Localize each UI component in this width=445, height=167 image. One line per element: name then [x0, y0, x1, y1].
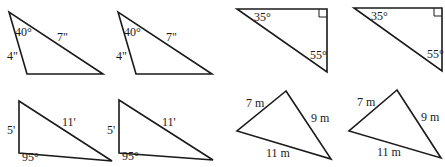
right-triangle-35-55-1: 35° 55°: [237, 9, 327, 72]
angle-label: 35°: [254, 10, 271, 24]
side-label: 4": [7, 49, 18, 63]
triangle-outline: [118, 12, 212, 74]
angle-label: 40°: [124, 25, 141, 39]
side-label: 11 m: [377, 145, 402, 159]
triangle-40deg-4in-7in-2: 40° 7" 4": [116, 12, 212, 74]
side-label: 5': [7, 123, 15, 137]
right-angle-mark: [319, 9, 327, 17]
angle-label: 35°: [371, 9, 388, 23]
triangle-outline: [354, 8, 442, 71]
right-angle-mark: [434, 8, 442, 16]
triangle-40deg-4in-7in-1: 40° 7" 4": [7, 12, 103, 74]
triangles-diagram: 40° 7" 4" 40° 7" 4" 35° 55° 35° 55° 5' 1…: [0, 0, 445, 167]
triangle-7m-9m-11m-2: 7 m 9 m 11 m: [349, 90, 441, 159]
triangle-outline: [9, 12, 103, 74]
side-label: 11 m: [266, 146, 291, 160]
right-triangle-35-55-2: 35° 55°: [354, 8, 444, 71]
angle-label: 55°: [310, 48, 327, 62]
angle-label: 95°: [122, 149, 139, 163]
angle-label: 40°: [15, 25, 32, 39]
side-label: 9 m: [311, 111, 330, 125]
side-label: 11': [62, 115, 76, 129]
triangle-5ft-11ft-95deg-2: 5' 11' 95°: [107, 100, 213, 163]
side-label: 5': [107, 123, 115, 137]
side-label: 4": [116, 49, 127, 63]
side-label: 11': [162, 115, 176, 129]
angle-label: 55°: [427, 47, 444, 61]
triangle-5ft-11ft-95deg-1: 5' 11' 95°: [7, 101, 112, 164]
side-label: 9 m: [421, 110, 440, 124]
side-label: 7": [166, 30, 177, 44]
side-label: 7": [57, 30, 68, 44]
angle-label: 95°: [22, 150, 39, 164]
triangle-7m-9m-11m-1: 7 m 9 m 11 m: [237, 91, 331, 160]
side-label: 7 m: [357, 95, 376, 109]
triangle-outline: [237, 9, 327, 72]
side-label: 7 m: [246, 96, 265, 110]
